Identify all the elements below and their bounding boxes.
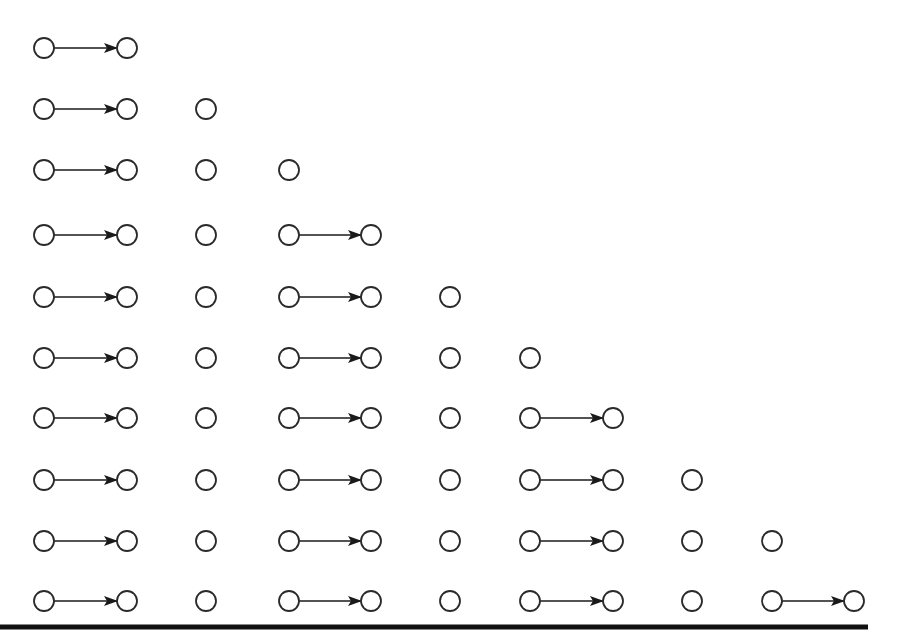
node-circle	[361, 531, 381, 551]
node-circle	[361, 287, 381, 307]
node-circle	[682, 531, 702, 551]
node-circle	[196, 160, 216, 180]
node-circle	[440, 591, 460, 611]
node-circle	[361, 348, 381, 368]
node-circle	[196, 348, 216, 368]
diagram-row	[34, 225, 381, 245]
diagram-row	[34, 38, 137, 58]
node-circle	[361, 408, 381, 428]
diagram-row	[34, 287, 460, 307]
pairing-diagram	[0, 0, 900, 644]
node-circle	[440, 287, 460, 307]
node-circle	[34, 408, 54, 428]
node-circle	[520, 470, 540, 490]
node-circle	[520, 408, 540, 428]
node-circle	[34, 287, 54, 307]
node-circle	[279, 348, 299, 368]
node-circle	[279, 531, 299, 551]
node-circle	[682, 470, 702, 490]
node-circle	[762, 531, 782, 551]
node-circle	[361, 470, 381, 490]
node-circle	[34, 38, 54, 58]
node-circle	[196, 225, 216, 245]
node-circle	[279, 225, 299, 245]
diagram-row	[34, 408, 623, 428]
diagram-row	[34, 348, 540, 368]
node-circle	[844, 591, 864, 611]
node-circle	[196, 287, 216, 307]
node-circle	[520, 348, 540, 368]
node-circle	[117, 591, 137, 611]
diagram-row	[34, 160, 299, 180]
diagram-row	[34, 99, 216, 119]
node-circle	[440, 531, 460, 551]
node-circle	[117, 348, 137, 368]
node-circle	[603, 531, 623, 551]
node-circle	[34, 225, 54, 245]
node-circle	[279, 591, 299, 611]
node-circle	[117, 99, 137, 119]
node-circle	[117, 287, 137, 307]
node-circle	[117, 38, 137, 58]
node-circle	[34, 348, 54, 368]
node-circle	[117, 225, 137, 245]
node-circle	[279, 470, 299, 490]
node-circle	[440, 470, 460, 490]
node-circle	[34, 99, 54, 119]
diagram-row	[34, 470, 702, 490]
node-circle	[196, 531, 216, 551]
node-circle	[520, 591, 540, 611]
node-circle	[117, 160, 137, 180]
diagram-row	[34, 591, 864, 611]
node-circle	[117, 408, 137, 428]
node-circle	[762, 591, 782, 611]
node-circle	[603, 408, 623, 428]
node-circle	[34, 531, 54, 551]
node-circle	[279, 287, 299, 307]
node-circle	[117, 531, 137, 551]
node-circle	[279, 160, 299, 180]
node-circle	[440, 408, 460, 428]
node-circle	[603, 591, 623, 611]
node-circle	[603, 470, 623, 490]
node-circle	[279, 408, 299, 428]
node-circle	[34, 591, 54, 611]
node-circle	[196, 408, 216, 428]
node-circle	[34, 160, 54, 180]
node-circle	[196, 470, 216, 490]
node-circle	[361, 591, 381, 611]
diagram-row	[34, 531, 782, 551]
node-circle	[440, 348, 460, 368]
diagram-rows	[34, 38, 864, 611]
node-circle	[117, 470, 137, 490]
node-circle	[361, 225, 381, 245]
node-circle	[196, 591, 216, 611]
node-circle	[34, 470, 54, 490]
node-circle	[196, 99, 216, 119]
node-circle	[682, 591, 702, 611]
node-circle	[520, 531, 540, 551]
